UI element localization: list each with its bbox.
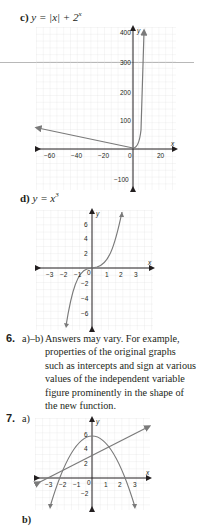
graph-d-y-tick: −6	[81, 310, 89, 317]
graph-c-y-tick: −100	[114, 176, 129, 183]
graph-d-x-tick: 0	[87, 269, 91, 276]
graph-d-x-tick: 2	[119, 271, 123, 278]
graph-7a-x-tick: 3	[133, 481, 137, 488]
q6-line: values of the independent variable	[45, 372, 196, 385]
graph-7a-y-tick: 2	[84, 460, 88, 467]
graph-d-y-tick: 2	[84, 250, 88, 257]
graph-d-y-tick: 6	[84, 221, 88, 228]
q6-line: properties of the original graphs	[45, 345, 196, 358]
graph-7a-x-tick: 1	[104, 481, 108, 488]
graph-d-x-tick: −1	[74, 271, 82, 278]
graph-c-y-tick: 100	[120, 117, 131, 124]
graph-d-x-tick: −3	[46, 271, 54, 278]
graph-7a-x-tick: 0	[87, 479, 91, 486]
q6-line: Answers may vary. For example,	[45, 332, 196, 345]
graph-c-x-tick: −40	[71, 152, 82, 159]
graph-d-x-tick: −2	[60, 271, 68, 278]
graph-7a-x-tick: −1	[73, 481, 81, 488]
graph-7a-y-tick: 6	[84, 431, 88, 438]
graph-d-y-tick: −2	[81, 280, 89, 287]
graph-c-x-tick: −60	[44, 152, 55, 159]
graph-d-grid	[36, 210, 153, 330]
graph-d: 6 4 2 −2 −4 −6 −3 −2 −1 0 1 2 3 x y	[0, 200, 194, 335]
graph-d-y-tick: −4	[81, 295, 89, 302]
graph-d-y-tick: 4	[84, 235, 88, 242]
graph-7a-y-tick: 4	[84, 445, 88, 452]
q6-number: 6.	[6, 332, 15, 345]
graph-7a-x-tick: −3	[45, 481, 53, 488]
graph-c-x-tick: −20	[98, 152, 109, 159]
graph-c-y-tick: 400	[120, 29, 131, 36]
graph-c-y-tick: 300	[120, 59, 131, 66]
q6-answer: Answers may vary. For example, propertie…	[45, 332, 196, 412]
q7-part-b-label: b)	[22, 513, 31, 526]
graph-c-y-tick: 200	[120, 89, 131, 96]
graph-d-x-tick: 3	[134, 271, 138, 278]
graph-7a-y-tick: −2	[81, 490, 89, 497]
graph-7a-x-tick: 2	[118, 481, 122, 488]
part-d-exponent: 3	[55, 191, 59, 199]
graph-c-grid	[36, 27, 176, 190]
graph-c: 400 300 200 100 −100 −60 −40 −20 0 20 x …	[0, 0, 194, 200]
graph-d-x-tick: 1	[105, 271, 109, 278]
graph-c-x-tick: 0	[128, 152, 132, 159]
graph-c-x-tick: 20	[157, 152, 165, 159]
q6-line: such as intercepts and sign at various	[45, 359, 196, 372]
q6-line: figure prominently in the shape of	[45, 386, 196, 399]
graph-7a: 6 4 2 −2 −3 −2 −1 0 1 2 3 x y	[0, 410, 194, 514]
q6-label: a)–b)	[22, 332, 44, 345]
graph-7a-x-tick: −2	[59, 481, 67, 488]
